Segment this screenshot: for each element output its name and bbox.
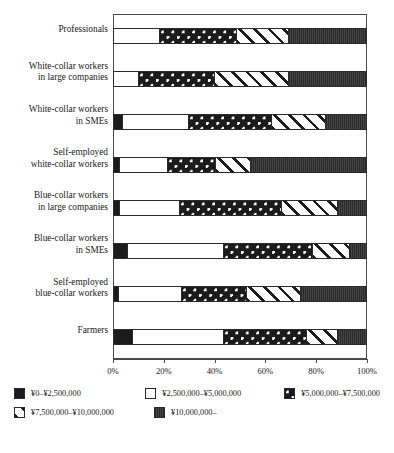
bar-segment (250, 158, 366, 172)
bar-segment (114, 330, 132, 344)
category-label: Self-employedwhite-collar workers (0, 147, 108, 170)
bar-segment (325, 115, 366, 129)
x-tick-label: 20% (156, 366, 172, 376)
chart-legend: ¥0–¥2,500,000 ¥2,500,000–¥5,000,000 ¥5,0… (14, 388, 380, 426)
bar-segment (167, 158, 216, 172)
stacked-bar-chart: ProfessionalsWhite-collar workersin larg… (0, 0, 394, 453)
legend-item-0: ¥0–¥2,500,000 (14, 388, 145, 399)
category-label: Self-employedblue-collar workers (0, 277, 108, 300)
stacked-bar (113, 286, 367, 302)
legend-swatch-black-icon (14, 388, 25, 399)
legend-label-3: ¥7,500,000–¥10,000,000 (31, 407, 114, 418)
stacked-bar (113, 71, 367, 87)
category-label: Farmers (0, 325, 108, 337)
x-tick-mark (367, 359, 368, 363)
bar-segment (349, 244, 366, 258)
bar-segment (214, 72, 287, 86)
bar-segment (114, 115, 122, 129)
bar-row: Self-employedwhite-collar workers (113, 143, 367, 181)
x-tick-label: 100% (357, 366, 377, 376)
x-tick-mark (113, 359, 114, 363)
bar-rows: ProfessionalsWhite-collar workersin larg… (113, 14, 367, 359)
category-label-line: blue-collar workers (0, 288, 108, 300)
category-label-line: White-collar workers (0, 104, 108, 116)
x-tick-label: 40% (207, 366, 223, 376)
legend-swatch-white-icon (145, 388, 156, 399)
legend-swatch-dark-icon (154, 407, 165, 418)
bar-segment (271, 115, 326, 129)
category-label: White-collar workersin large companies (0, 61, 108, 84)
legend-label-0: ¥0–¥2,500,000 (31, 388, 81, 399)
x-tick-mark (215, 359, 216, 363)
category-label-line: in large companies (0, 202, 108, 214)
bar-row: Blue-collar workersin SMEs (113, 230, 367, 268)
legend-swatch-dots-icon (284, 388, 295, 399)
category-label-line: Self-employed (0, 277, 108, 289)
legend-swatch-hatch-icon (14, 407, 25, 418)
stacked-bar (113, 329, 367, 345)
bar-segment (127, 244, 223, 258)
bar-row: Self-employedblue-collar workers (113, 273, 367, 311)
x-tick-label: 80% (308, 366, 324, 376)
bar-segment (223, 330, 305, 344)
bar-segment (337, 201, 366, 215)
bar-segment (119, 201, 178, 215)
bar-segment (179, 201, 281, 215)
x-axis-line (113, 359, 367, 360)
legend-label-4: ¥10,000,000– (171, 407, 217, 418)
legend-row-1: ¥0–¥2,500,000 ¥2,500,000–¥5,000,000 ¥5,0… (14, 388, 380, 399)
category-label-line: Blue-collar workers (0, 190, 108, 202)
bar-segment (159, 29, 236, 43)
bar-segment (306, 330, 338, 344)
x-tick-label: 0% (107, 366, 118, 376)
bar-segment (337, 330, 366, 344)
category-label-line: in SMEs (0, 245, 108, 257)
category-label: Professionals (0, 24, 108, 36)
bar-segment (288, 29, 366, 43)
bar-segment (223, 244, 312, 258)
stacked-bar (113, 114, 367, 130)
category-label-line: Professionals (0, 24, 108, 36)
bar-segment (188, 115, 270, 129)
legend-label-1: ¥2,500,000–¥5,000,000 (162, 388, 241, 399)
bar-segment (119, 158, 167, 172)
bar-segment (122, 115, 189, 129)
legend-item-1: ¥2,500,000–¥5,000,000 (145, 388, 284, 399)
category-label: Blue-collar workersin large companies (0, 190, 108, 213)
stacked-bar (113, 28, 367, 44)
bar-row: Blue-collar workersin large companies (113, 187, 367, 225)
bar-segment (118, 287, 180, 301)
category-label-line: Self-employed (0, 147, 108, 159)
category-label-line: white-collar workers (0, 159, 108, 171)
x-tick-mark (164, 359, 165, 363)
bar-segment (288, 72, 366, 86)
stacked-bar (113, 157, 367, 173)
category-label-line: Blue-collar workers (0, 233, 108, 245)
bar-row: Farmers (113, 316, 367, 354)
category-label-line: White-collar workers (0, 61, 108, 73)
category-label: White-collar workersin SMEs (0, 104, 108, 127)
bar-segment (215, 158, 250, 172)
bar-segment (138, 72, 215, 86)
legend-label-2: ¥5,000,000–¥7,500,000 (301, 388, 380, 399)
bar-segment (312, 244, 349, 258)
bar-segment (300, 287, 366, 301)
category-label: Blue-collar workersin SMEs (0, 233, 108, 256)
category-label-line: in large companies (0, 72, 108, 84)
bar-segment (132, 330, 223, 344)
category-label-line: Farmers (0, 325, 108, 337)
bar-segment (236, 29, 288, 43)
category-label-line: in SMEs (0, 116, 108, 128)
legend-row-2: ¥7,500,000–¥10,000,000 ¥10,000,000– (14, 407, 380, 418)
legend-item-4: ¥10,000,000– (154, 407, 302, 418)
bar-segment (114, 29, 159, 43)
legend-item-3: ¥7,500,000–¥10,000,000 (14, 407, 154, 418)
legend-item-2: ¥5,000,000–¥7,500,000 (284, 388, 380, 399)
x-tick-label: 60% (258, 366, 274, 376)
stacked-bar (113, 200, 367, 216)
bar-row: Professionals (113, 14, 367, 52)
bar-segment (246, 287, 300, 301)
bar-segment (114, 244, 127, 258)
bar-row: White-collar workersin SMEs (113, 100, 367, 138)
x-tick-mark (316, 359, 317, 363)
